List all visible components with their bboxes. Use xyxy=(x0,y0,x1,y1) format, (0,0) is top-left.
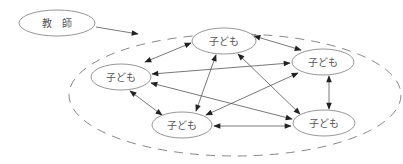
child-label: 子ども xyxy=(167,120,197,131)
children-nodes: 子ども子ども子ども子ども子ども xyxy=(91,28,355,138)
teacher-children-relationship-diagram: 教 師 子ども子ども子ども子ども子ども xyxy=(0,0,403,164)
teacher-label: 教 師 xyxy=(42,17,72,29)
child-node-E: 子ども xyxy=(293,110,355,136)
child-label: 子ども xyxy=(309,118,339,129)
edge-A-E-arrow xyxy=(238,54,300,114)
child-node-B: 子ども xyxy=(91,64,151,90)
child-node-A: 子ども xyxy=(192,28,256,54)
edge-A-B-arrow xyxy=(145,43,191,62)
edge-B-D-arrow xyxy=(130,91,162,115)
child-label: 子ども xyxy=(106,72,136,83)
edge-A-C-arrow xyxy=(254,36,301,50)
teacher-node: 教 師 xyxy=(19,10,95,36)
child-label: 子ども xyxy=(209,36,239,47)
edge-A-D-arrow xyxy=(196,55,216,111)
child-label: 子ども xyxy=(308,57,338,68)
child-node-C: 子ども xyxy=(292,49,354,75)
child-node-D: 子ども xyxy=(152,112,212,138)
edge-teacher-group-arrow xyxy=(96,27,138,34)
edge-B-C-arrow xyxy=(152,63,290,74)
